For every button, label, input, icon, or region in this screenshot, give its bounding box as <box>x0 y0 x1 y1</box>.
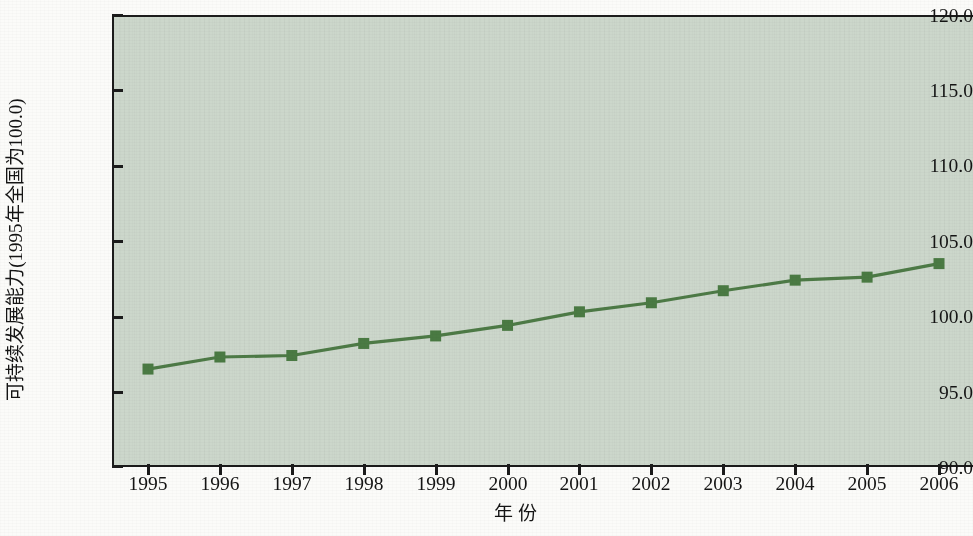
x-axis-label-text: 年 份 <box>494 503 537 524</box>
x-axis-label: 年 份 <box>0 498 973 525</box>
data-point-marker <box>646 297 657 308</box>
x-tick-label: 2006 <box>891 474 973 494</box>
data-point-marker <box>574 306 585 317</box>
data-point-marker <box>502 320 513 331</box>
data-point-marker <box>934 258 945 269</box>
data-point-marker <box>718 285 729 296</box>
series-line <box>148 264 939 369</box>
data-point-marker <box>790 275 801 286</box>
data-point-marker <box>358 338 369 349</box>
data-point-marker <box>430 330 441 341</box>
data-point-marker <box>143 364 154 375</box>
y-axis-label: 可持续发展能力(1995年全国为100.0) <box>0 15 27 485</box>
data-series-layer <box>112 15 973 467</box>
data-point-marker <box>862 272 873 283</box>
data-point-marker <box>286 350 297 361</box>
data-point-marker <box>214 352 225 363</box>
chart-figure: 120.0 115.0 110.0 105.0 100.0 95.0 90.0 … <box>0 0 973 536</box>
